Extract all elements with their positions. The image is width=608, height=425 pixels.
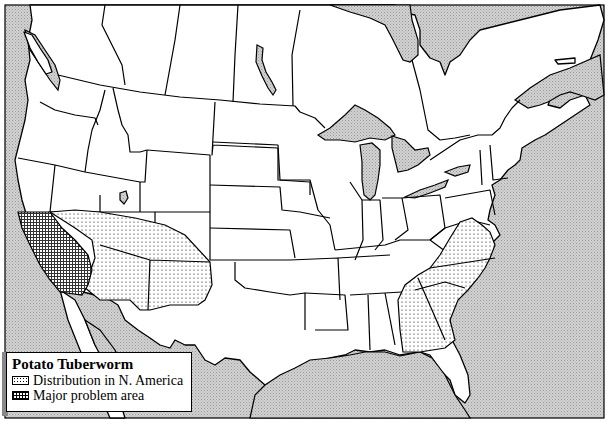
legend-label: Distribution in N. America [33,373,183,388]
grid-pattern-swatch-icon [12,391,29,400]
legend-item-major: Major problem area [12,388,186,403]
legend-label: Major problem area [33,388,144,403]
legend-title: Potato Tuberworm [12,356,186,373]
legend-item-distribution: Distribution in N. America [12,373,186,388]
dotted-pattern-swatch-icon [12,376,29,385]
legend: Potato Tuberworm Distribution in N. Amer… [6,352,192,412]
